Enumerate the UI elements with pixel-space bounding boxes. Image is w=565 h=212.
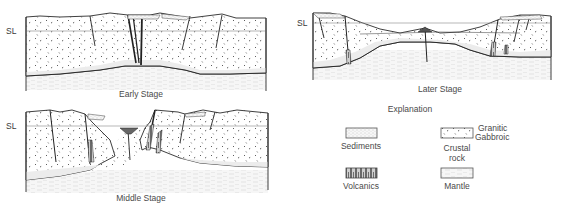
panel-title-early: Early Stage — [119, 89, 163, 99]
svg-text:Crustal: Crustal — [444, 143, 471, 153]
mantle-swatch — [441, 168, 473, 178]
svg-text:Sediments: Sediments — [341, 141, 381, 151]
legend-item-sediments: Sediments — [341, 128, 381, 151]
volcanics-swatch — [346, 168, 377, 178]
later-stage-panel: SL Later Stage — [297, 13, 551, 94]
legend-item-volcanics: Volcanics — [343, 168, 379, 191]
rift-stages-diagram: SL Early Stage SL Later Stage — [0, 0, 565, 212]
sediments-swatch — [346, 128, 377, 138]
panel-title-later: Later Stage — [418, 84, 462, 94]
legend-item-crustal-rock: Granitic Gabbroic Crustal rock — [441, 123, 510, 163]
sea-level-label: SL — [297, 18, 308, 28]
svg-text:rock: rock — [449, 153, 466, 163]
early-stage-panel: SL Early Stage — [6, 13, 266, 99]
panel-title-middle: Middle Stage — [116, 193, 166, 203]
legend-title: Explanation — [388, 104, 433, 114]
sea-level-label: SL — [6, 26, 17, 36]
crustal-rock-swatch — [441, 128, 473, 138]
middle-stage-panel: SL Middle Stage — [6, 110, 268, 203]
sea-level-label: SL — [6, 121, 17, 131]
legend: Explanation Sediments Volcanics Granitic… — [341, 104, 510, 191]
svg-text:Volcanics: Volcanics — [343, 181, 379, 191]
legend-item-mantle: Mantle — [441, 168, 473, 191]
svg-text:Mantle: Mantle — [444, 181, 470, 191]
gabbroic-label: Gabbroic — [475, 132, 510, 142]
